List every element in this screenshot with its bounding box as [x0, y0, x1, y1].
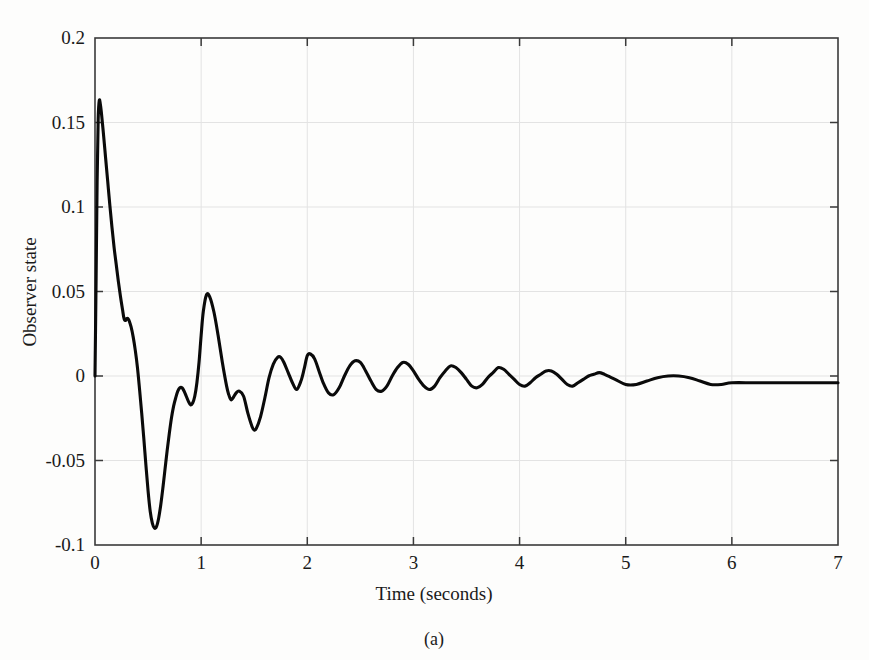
y-axis-tick-labels: -0.1-0.0500.050.10.150.2	[45, 27, 85, 555]
x-tick-label: 5	[621, 552, 631, 573]
figure-caption: (a)	[424, 629, 444, 650]
x-tick-label: 6	[727, 552, 737, 573]
y-tick-label: -0.1	[55, 534, 85, 555]
x-tick-label: 3	[409, 552, 419, 573]
y-tick-label: 0.15	[52, 112, 85, 133]
x-tick-label: 0	[90, 552, 100, 573]
figure-panel: 01234567 -0.1-0.0500.050.10.150.2 Time (…	[0, 0, 869, 660]
x-tick-label: 7	[833, 552, 843, 573]
y-tick-label: -0.05	[45, 450, 85, 471]
x-tick-label: 2	[303, 552, 313, 573]
y-tick-label: 0	[76, 365, 86, 386]
y-tick-label: 0.05	[52, 281, 85, 302]
chart-canvas: 01234567 -0.1-0.0500.050.10.150.2 Time (…	[0, 0, 869, 660]
y-tick-label: 0.1	[61, 196, 85, 217]
x-tick-label: 1	[196, 552, 206, 573]
x-axis-tick-labels: 01234567	[90, 552, 843, 573]
x-tick-label: 4	[515, 552, 525, 573]
y-axis-title: Observer state	[19, 237, 40, 346]
y-tick-label: 0.2	[61, 27, 85, 48]
x-axis-title: Time (seconds)	[376, 583, 493, 605]
grid-lines	[95, 38, 838, 545]
observer-state-curve	[95, 100, 838, 529]
